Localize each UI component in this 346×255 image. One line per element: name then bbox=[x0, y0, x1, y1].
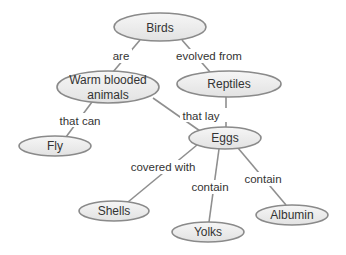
concept-map: are evolved from that can that lay cover… bbox=[0, 0, 346, 255]
edge-label-evolved-from: evolved from bbox=[176, 49, 242, 63]
edge-label-covered-with: covered with bbox=[129, 160, 197, 174]
node-fly: Fly bbox=[19, 136, 91, 156]
node-warm-blooded-animals: Warm blooded animals bbox=[57, 71, 159, 103]
node-reptiles: Reptiles bbox=[177, 71, 281, 97]
svg-text:Eggs: Eggs bbox=[211, 131, 238, 145]
node-shells: Shells bbox=[79, 201, 149, 221]
svg-text:Albumin: Albumin bbox=[270, 208, 313, 222]
svg-text:that can: that can bbox=[60, 115, 101, 127]
svg-text:that lay: that lay bbox=[182, 110, 219, 122]
node-albumin: Albumin bbox=[256, 205, 328, 225]
node-yolks: Yolks bbox=[172, 222, 244, 242]
svg-text:contain: contain bbox=[191, 181, 228, 193]
node-eggs: Eggs bbox=[189, 127, 261, 149]
svg-text:Shells: Shells bbox=[98, 204, 131, 218]
svg-text:Birds: Birds bbox=[146, 21, 173, 35]
edge-label-contain-albumin: contain bbox=[242, 172, 284, 186]
edge-label-are: are bbox=[110, 49, 132, 63]
svg-text:evolved from: evolved from bbox=[176, 50, 242, 62]
edge-label-that-can: that can bbox=[58, 113, 102, 127]
svg-text:Fly: Fly bbox=[47, 139, 63, 153]
svg-text:Reptiles: Reptiles bbox=[207, 77, 250, 91]
edge-label-contain-yolks: contain bbox=[189, 180, 231, 194]
svg-text:Warm blooded: Warm blooded bbox=[69, 73, 147, 87]
svg-text:covered with: covered with bbox=[131, 161, 196, 173]
svg-text:are: are bbox=[113, 50, 130, 62]
svg-text:contain: contain bbox=[244, 173, 281, 185]
edge-label-that-lay: that lay bbox=[180, 108, 232, 122]
svg-text:animals: animals bbox=[87, 88, 128, 102]
svg-text:Yolks: Yolks bbox=[194, 225, 222, 239]
node-birds: Birds bbox=[114, 13, 206, 41]
